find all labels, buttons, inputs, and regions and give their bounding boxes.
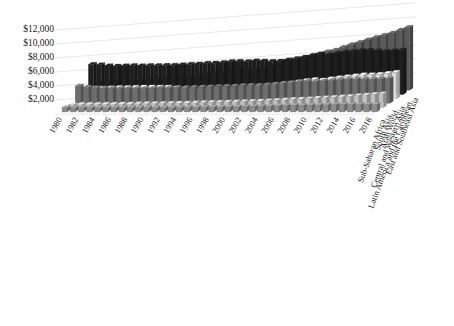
bar-front-face <box>181 88 186 104</box>
bar-3d <box>307 103 315 112</box>
bar-side-face <box>178 86 181 104</box>
xtick-label: 1982 <box>63 115 80 135</box>
xtick-label: 2000 <box>210 115 227 135</box>
xtick-label: 1992 <box>145 115 162 135</box>
bar-3d <box>372 102 380 112</box>
xtick-label: 2008 <box>275 115 292 135</box>
bar-side-face <box>383 92 386 108</box>
bar-front-face <box>339 105 344 112</box>
bar-3d <box>83 85 91 103</box>
bar-front-face <box>266 106 271 112</box>
bar-front-face <box>331 105 336 112</box>
xtick-label: 1990 <box>128 115 145 135</box>
bar-3d <box>165 86 173 103</box>
bar-front-face <box>152 108 157 112</box>
bar-3d <box>157 86 165 104</box>
bar-side-face <box>121 86 124 103</box>
bar-3d <box>274 104 282 112</box>
bar-3d <box>339 103 347 112</box>
bar-side-face <box>170 86 173 103</box>
bar-front-face <box>140 89 145 104</box>
bar-3d <box>62 105 70 112</box>
bar-front-face <box>108 88 113 103</box>
bar-front-face <box>119 108 124 112</box>
bar-3d <box>181 85 189 103</box>
bar-front-face <box>282 106 287 112</box>
bar-front-face <box>315 105 320 112</box>
bar-front-face <box>157 88 162 103</box>
bar-front-face <box>241 107 246 112</box>
bar-side-face <box>113 86 116 103</box>
bar-front-face <box>70 108 75 112</box>
bar-side-face <box>145 86 148 103</box>
bar-side-face <box>397 70 400 99</box>
bar-front-face <box>355 105 360 112</box>
xtick-label: 2012 <box>308 115 325 135</box>
bar-front-face <box>103 108 108 112</box>
bar-front-face <box>184 108 189 112</box>
bar-3d <box>132 87 140 104</box>
bar-front-face <box>62 108 67 112</box>
bar-side-face <box>97 86 100 104</box>
xtick-label: 1994 <box>161 115 179 135</box>
bar-side-face <box>186 85 189 103</box>
bar-front-face <box>217 107 222 112</box>
value-axis: $2,000$4,000$6,000$8,000$10,000$12,000 <box>23 24 54 104</box>
bar-front-face <box>111 108 116 112</box>
bar-front-face <box>127 108 132 112</box>
gridline <box>54 3 417 30</box>
ytick-label: $8,000 <box>28 52 54 62</box>
bar-front-face <box>176 108 181 112</box>
ytick-label: $12,000 <box>23 24 54 34</box>
bar-side-face <box>403 48 406 94</box>
region-axis: Sub-Saharan AfricaSouth AsiaArab WorldCe… <box>355 96 420 210</box>
bar-front-face <box>225 107 230 112</box>
bar-3d <box>173 86 181 104</box>
bar-front-face <box>173 88 178 104</box>
bar-3d <box>323 103 331 112</box>
bar-3d <box>75 84 83 103</box>
bar-chart-3d: $2,000$4,000$6,000$8,000$10,000$12,00019… <box>0 0 454 326</box>
bar-3d <box>124 87 132 104</box>
xtick-label: 2006 <box>259 115 276 135</box>
bar-side-face <box>105 86 108 103</box>
xtick-label: 2014 <box>324 115 342 135</box>
ytick-label: $4,000 <box>28 80 54 90</box>
xtick-label: 1988 <box>112 115 129 135</box>
bar-3d <box>298 103 306 112</box>
bar-side-face <box>137 87 140 104</box>
bar-3d <box>116 86 124 103</box>
bar-3d <box>92 86 100 104</box>
xtick-label: 2018 <box>357 115 374 135</box>
bar-front-face <box>307 105 312 112</box>
bar-3d <box>315 103 323 112</box>
bar-front-face <box>144 108 149 112</box>
bar-side-face <box>80 84 83 103</box>
bar-front-face <box>249 107 254 112</box>
bar-front-face <box>233 107 238 112</box>
gridline <box>54 17 417 44</box>
bar-front-face <box>149 88 154 103</box>
ytick-label: $6,000 <box>28 66 54 76</box>
bar-front-face <box>100 88 105 103</box>
bar-front-face <box>290 106 295 112</box>
bar-front-face <box>95 108 100 112</box>
bar-3d <box>290 103 298 112</box>
bar-3d <box>149 86 157 103</box>
bar-front-face <box>86 108 91 112</box>
bar-front-face <box>347 105 352 112</box>
bar-3d <box>331 103 339 112</box>
bar-front-face <box>323 105 328 112</box>
xtick-label: 2010 <box>291 115 308 135</box>
bar-front-face <box>168 108 173 112</box>
bar-front-face <box>132 89 137 104</box>
bar-front-face <box>83 87 88 103</box>
bar-front-face <box>124 89 129 104</box>
bar-front-face <box>160 108 165 112</box>
bar-front-face <box>192 107 197 112</box>
bar-front-face <box>364 105 369 112</box>
bar-side-face <box>154 86 157 103</box>
bar-3d <box>140 86 148 103</box>
chart-container: $2,000$4,000$6,000$8,000$10,000$12,00019… <box>0 0 454 326</box>
ytick-label: $2,000 <box>28 94 54 104</box>
